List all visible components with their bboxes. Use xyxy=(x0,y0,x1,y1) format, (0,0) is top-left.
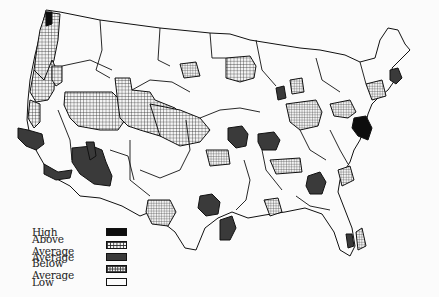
region-houston xyxy=(220,216,236,240)
map-regions xyxy=(18,10,410,256)
map-legend: High Above Average Average Below Average… xyxy=(32,226,127,288)
region-idaho xyxy=(52,66,62,86)
legend-swatch-above-average xyxy=(106,241,127,249)
legend-swatch-low xyxy=(106,278,127,286)
region-michigan xyxy=(290,78,304,94)
legend-swatch-high xyxy=(106,228,127,236)
legend-item-above-average: Above Average xyxy=(32,238,127,250)
legend-item-below-average: Below Average xyxy=(32,263,127,275)
legend-label: Low xyxy=(32,276,106,288)
region-carolinas xyxy=(338,166,354,186)
legend-swatch-average xyxy=(106,253,127,261)
legend-swatch-below-average xyxy=(106,265,127,273)
us-outline xyxy=(27,10,410,256)
region-south-florida xyxy=(346,234,354,248)
region-upper-plains xyxy=(180,62,200,78)
region-se-florida xyxy=(356,228,366,250)
region-seattle xyxy=(46,12,52,26)
region-tennessee xyxy=(270,158,302,174)
region-minnesota xyxy=(226,56,256,82)
region-oklahoma xyxy=(206,150,230,166)
legend-item-low: Low xyxy=(32,276,127,288)
region-boston xyxy=(390,68,402,84)
region-chicago xyxy=(276,86,286,100)
